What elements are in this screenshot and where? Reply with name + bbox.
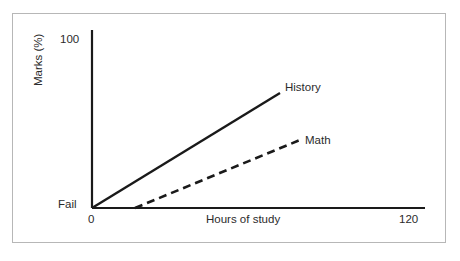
- chart-figure: 100 Fail Marks (%) 0 120 Hours of study …: [0, 0, 460, 261]
- series-line-math: [135, 140, 300, 208]
- x-axis-title: Hours of study: [206, 214, 280, 226]
- x-axis-tick-label-120: 120: [399, 214, 418, 226]
- y-axis-tick-label-100: 100: [60, 34, 79, 46]
- y-axis-title: Marks (%): [33, 72, 45, 86]
- series-label-math: Math: [305, 135, 331, 147]
- x-axis-tick-label-0: 0: [88, 214, 94, 226]
- y-axis-tick-label-fail: Fail: [58, 199, 77, 211]
- series-line-history: [92, 93, 280, 208]
- series-label-history: History: [285, 82, 321, 94]
